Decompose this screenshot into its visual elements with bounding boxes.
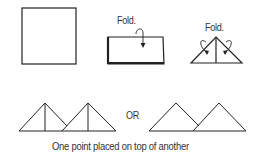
fold-label-1: Fold. (117, 14, 136, 26)
overlapping-triangles (149, 103, 246, 131)
fold-arrow-icon (136, 29, 146, 48)
square-paper (22, 8, 76, 64)
overlapping-triangles-with-folds (19, 103, 116, 131)
folded-rectangle (108, 37, 164, 64)
diagram-caption: One point placed on top of another (52, 140, 189, 152)
or-label: OR (126, 109, 139, 121)
folded-triangle (191, 37, 242, 63)
fold-label-2: Fold. (205, 21, 224, 33)
